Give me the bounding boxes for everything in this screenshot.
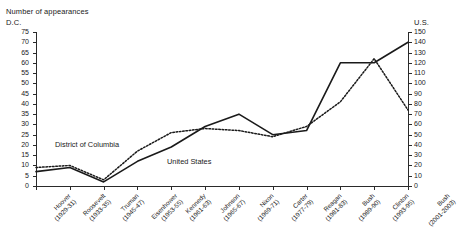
series-line-united-states (36, 42, 408, 182)
series-line-district-of-columbia (36, 59, 408, 180)
series-label-united-states: United States (166, 157, 212, 166)
series-label-district-of-columbia: District of Columbia (54, 140, 120, 149)
